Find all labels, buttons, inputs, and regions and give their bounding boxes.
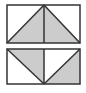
top-figure bbox=[7, 5, 80, 43]
triangle-diagram bbox=[0, 0, 86, 93]
bottom-figure bbox=[7, 49, 80, 84]
